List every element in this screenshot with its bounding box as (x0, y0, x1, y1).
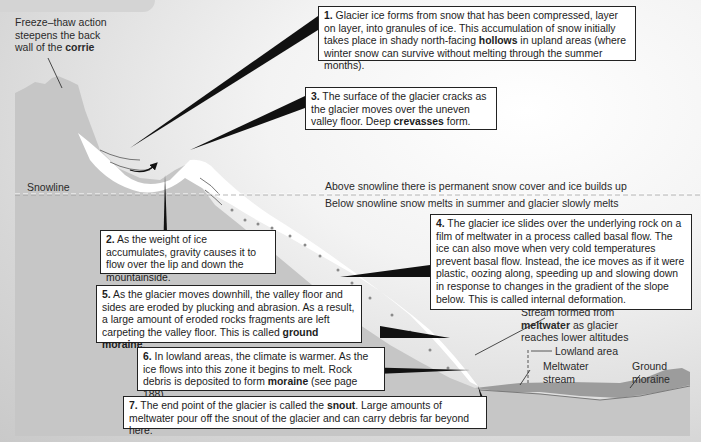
freeze-thaw-label: Freeze–thaw action steepens the back wal… (15, 16, 120, 54)
below-snowline-label: Below snowline snow melts in summer and … (325, 197, 619, 210)
callout-7: 7. The end point of the glacier is calle… (123, 396, 487, 429)
meltwater-stream-formed-label: Stream formed frommeltwater as glacier r… (521, 306, 651, 344)
lowland-area-label: Lowland area (555, 345, 618, 358)
callout-6: 6. In lowland areas, the climate is warm… (137, 347, 385, 391)
callout-3: 3. The surface of the glacier cracks as … (305, 87, 497, 130)
ground-moraine-label: Ground moraine (632, 360, 682, 385)
snowline-label: Snowline (27, 181, 70, 194)
above-snowline-label: Above snowline there is permanent snow c… (325, 180, 627, 193)
callout-4: 4. The glacier ice slides over the under… (430, 214, 692, 310)
meltwater-stream-label: Meltwater stream (543, 360, 603, 385)
callout-2: 2. As the weight of ice accumulates, gra… (100, 230, 276, 274)
callout-1: 1. Glacier ice forms from snow that has … (318, 6, 636, 61)
callout-5: 5. As the glacier moves downhill, the va… (96, 285, 362, 343)
